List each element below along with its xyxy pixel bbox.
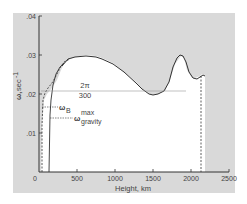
omega-max-superscript: max: [81, 109, 95, 116]
x-axis-label: Height, km: [115, 184, 151, 193]
y-axis-label: ω, sec -1: [12, 72, 23, 100]
x-tick-label: 2000: [183, 175, 199, 182]
two-pi-numerator: 2π: [80, 81, 89, 90]
omega-b-subscript: B: [66, 107, 71, 114]
y-tick-label: .02: [26, 91, 36, 98]
x-tick-label: 2500: [221, 175, 237, 182]
two-pi-denominator: 300: [79, 91, 92, 100]
x-tick-label: 1000: [107, 175, 123, 182]
chart-svg: .04 .03 .02 .01 0 500 1000 1500 2000 250…: [0, 0, 247, 204]
svg-text:sec: sec: [14, 79, 23, 91]
omega-b-symbol: ω: [59, 103, 66, 112]
svg-text:-1: -1: [12, 72, 19, 78]
x-tick-label: 1500: [145, 175, 161, 182]
omega-max-gravity-symbol: ω: [74, 114, 81, 123]
y-tick-label: .03: [26, 52, 36, 59]
y-tick-label: .01: [26, 130, 36, 137]
svg-text:ω,: ω,: [14, 92, 23, 100]
x-tick-label: 500: [71, 175, 83, 182]
omega-gravity-subscript: gravity: [81, 118, 102, 126]
y-tick-label: .04: [26, 13, 36, 20]
x-tick-label: 0: [33, 175, 37, 182]
